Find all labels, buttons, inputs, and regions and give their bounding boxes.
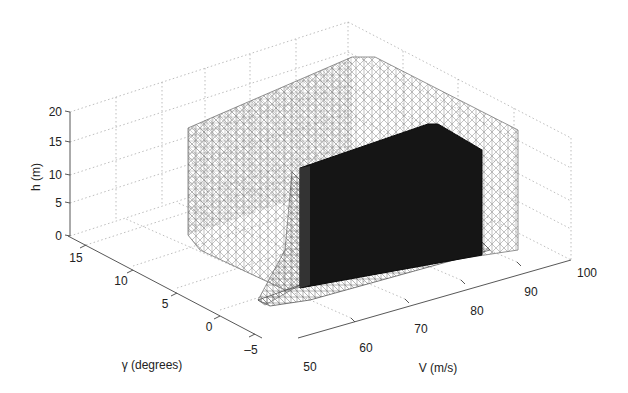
chart-3d-surface: 20 15 10 5 0 h (m) 15 10 5 0 –5 γ (degre… xyxy=(0,0,628,393)
y-tick: –5 xyxy=(244,343,258,357)
y-tick: 10 xyxy=(114,274,128,288)
z-tick: 5 xyxy=(55,196,62,210)
y-tick-labels: 15 10 5 0 –5 xyxy=(69,251,258,357)
x-tick: 80 xyxy=(470,304,484,318)
x-tick: 100 xyxy=(577,266,597,280)
y-tick: 5 xyxy=(162,297,169,311)
z-tick: 0 xyxy=(55,229,62,243)
x-tick: 50 xyxy=(303,360,317,374)
x-tick: 60 xyxy=(359,341,373,355)
z-tick: 10 xyxy=(49,168,63,182)
x-tick: 90 xyxy=(524,285,538,299)
y-axis-label: γ (degrees) xyxy=(122,358,183,372)
z-tick-labels: 20 15 10 5 0 xyxy=(49,105,63,243)
y-tick: 15 xyxy=(69,251,83,265)
z-axis-label: h (m) xyxy=(29,163,43,191)
z-tick: 20 xyxy=(49,105,63,119)
x-tick: 70 xyxy=(414,322,428,336)
x-axis-label: V (m/s) xyxy=(419,361,458,375)
z-tick: 15 xyxy=(49,135,63,149)
y-tick: 0 xyxy=(206,320,213,334)
